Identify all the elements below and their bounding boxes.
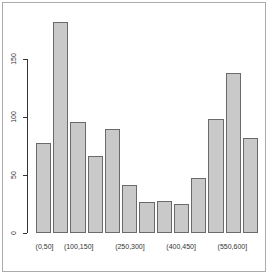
- bar: [208, 119, 223, 233]
- bar: [226, 73, 241, 233]
- x-tick-label: (550,600]: [218, 243, 248, 250]
- bar: [191, 178, 206, 233]
- x-tick-label: (250,300]: [115, 243, 145, 250]
- y-tick-label: 100: [10, 111, 17, 123]
- bar: [139, 202, 154, 233]
- bar: [243, 138, 258, 233]
- bar: [53, 22, 68, 233]
- y-tick-label: 150: [10, 53, 17, 65]
- y-axis-tick: [23, 175, 27, 176]
- bar: [174, 204, 189, 233]
- bar: [36, 143, 51, 233]
- y-tick-label: 0: [10, 231, 17, 235]
- barplot-figure: 050100150 (0,50](100,150](250,300](400,4…: [0, 0, 268, 274]
- bar: [88, 156, 103, 233]
- x-tick-label: (0,50]: [36, 243, 54, 250]
- y-axis-tick: [23, 117, 27, 118]
- bar: [105, 129, 120, 233]
- bar: [70, 122, 85, 233]
- bar-series: [36, 8, 258, 233]
- y-axis-line: [27, 59, 28, 233]
- x-tick-label: (400,450]: [166, 243, 196, 250]
- bar: [157, 201, 172, 233]
- bar: [122, 185, 137, 233]
- x-tick-label: (100,150]: [64, 243, 94, 250]
- y-axis-tick: [23, 59, 27, 60]
- y-axis-tick: [23, 233, 27, 234]
- y-tick-label: 50: [10, 171, 17, 179]
